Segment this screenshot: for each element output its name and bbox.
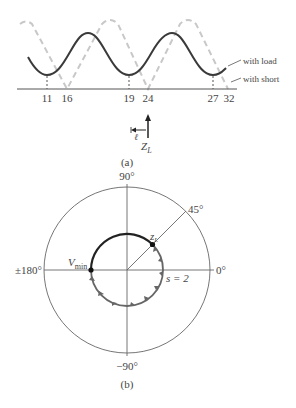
load-symbol: ZL xyxy=(141,140,152,155)
swr-circle-upper-arc xyxy=(91,234,153,270)
tick-label-27: 27 xyxy=(208,92,220,104)
legend-with-short: with short xyxy=(243,74,280,84)
angle-label-180: ±180° xyxy=(15,264,42,276)
tick-label-11: 11 xyxy=(42,92,53,104)
swr-label: s = 2 xyxy=(166,272,189,284)
tick-label-19: 19 xyxy=(124,92,136,104)
with-load-curve xyxy=(28,33,226,75)
vmin-label: Vmin xyxy=(68,256,87,271)
load-arrow-head-icon xyxy=(145,114,151,121)
tick-label-32: 32 xyxy=(224,92,235,104)
figure-canvas: 11 16 19 24 27 32 with load with short ℓ… xyxy=(0,0,296,408)
legend-with-load: with load xyxy=(243,56,277,66)
tick-label-16: 16 xyxy=(62,92,74,104)
vmin-point xyxy=(88,267,93,272)
length-symbol: ℓ xyxy=(134,132,138,142)
caption-b: (b) xyxy=(121,378,134,391)
arrow-icon xyxy=(89,276,95,281)
caption-a: (a) xyxy=(121,156,134,169)
legend-leader-load xyxy=(228,60,241,66)
tick-label-24: 24 xyxy=(143,92,155,104)
angle-label-minus-90: −90° xyxy=(116,360,138,372)
angle-label-90: 90° xyxy=(119,170,134,182)
legend-leader-short xyxy=(231,78,241,82)
standing-wave-plot: 11 16 19 24 27 32 with load with short ℓ… xyxy=(17,20,280,169)
angle-label-0: 0° xyxy=(216,264,226,276)
polar-plot: 90° −90° ±180° 0° 45° Vmin zL s = 2 (b) xyxy=(15,170,226,391)
angle-label-45: 45° xyxy=(188,203,203,215)
zl-label: zL xyxy=(149,230,158,244)
with-short-curve xyxy=(20,20,228,89)
